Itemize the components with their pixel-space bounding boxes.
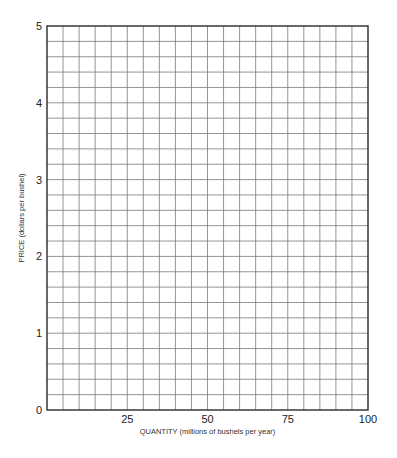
- y-tick-label: 2: [36, 250, 42, 262]
- y-tick-label: 0: [36, 404, 42, 416]
- y-tick-label: 3: [36, 174, 42, 186]
- y-tick-label: 1: [36, 327, 42, 339]
- x-tick-label: 75: [282, 413, 294, 425]
- x-axis-label: QUANTITY (millions of bushels per year): [140, 427, 276, 436]
- x-tick-label: 25: [121, 413, 133, 425]
- y-tick-label: 5: [36, 20, 42, 32]
- x-axis-ticks: 255075100: [121, 413, 377, 425]
- x-tick-label: 50: [201, 413, 213, 425]
- grid: [47, 26, 368, 410]
- y-tick-label: 4: [36, 97, 42, 109]
- y-axis-label: PRICE (dollars per bushel): [17, 173, 26, 263]
- chart: 255075100 012345 QUANTITY (millions of b…: [0, 0, 397, 458]
- y-axis-ticks: 012345: [36, 20, 42, 416]
- x-tick-label: 100: [359, 413, 377, 425]
